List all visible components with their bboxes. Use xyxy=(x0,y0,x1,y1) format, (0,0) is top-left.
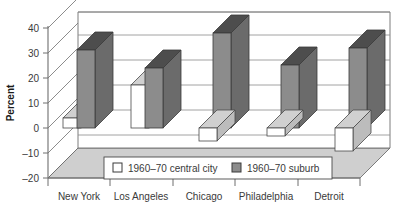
x-tick-label-los-angeles: Los Angeles xyxy=(114,191,169,202)
legend-label-suburb: 1960–70 suburb xyxy=(247,163,320,174)
x-tick-label-philadelphia: Philadelphia xyxy=(239,191,294,202)
bar-new-york-suburb xyxy=(77,32,113,128)
x-tick-label-detroit: Detroit xyxy=(314,191,344,202)
depth-connectors xyxy=(48,0,78,178)
y-tick-label-neg20: –20 xyxy=(22,173,39,184)
legend-swatch-suburb xyxy=(232,163,241,172)
y-tick-label-20: 20 xyxy=(28,73,40,84)
y-tick-label-0: 0 xyxy=(33,123,39,134)
chart-canvas: 40 30 20 10 0 –10 –20 Percent xyxy=(0,0,416,220)
y-axis-ticks xyxy=(43,28,48,178)
x-tick-label-chicago: Chicago xyxy=(186,191,223,202)
legend: 1960–70 central city 1960–70 suburb xyxy=(104,157,332,179)
y-axis-title: Percent xyxy=(5,84,16,121)
legend-label-central-city: 1960–70 central city xyxy=(128,163,218,174)
legend-swatch-central-city xyxy=(113,163,122,172)
bar-chart: 40 30 20 10 0 –10 –20 Percent xyxy=(0,0,416,220)
y-tick-label-10: 10 xyxy=(28,98,40,109)
y-tick-label-neg10: –10 xyxy=(22,148,39,159)
y-tick-label-30: 30 xyxy=(28,48,40,59)
legend-item-central-city: 1960–70 central city xyxy=(113,163,218,174)
y-tick-label-40: 40 xyxy=(28,23,40,34)
x-tick-label-new-york: New York xyxy=(58,191,101,202)
